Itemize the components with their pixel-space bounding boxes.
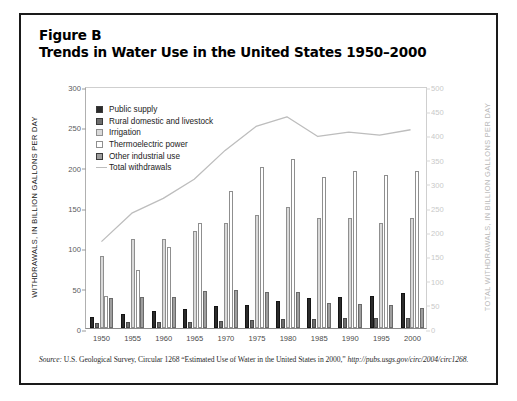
legend-line-swatch <box>96 167 107 168</box>
x-tick-label: 1980 <box>280 334 297 343</box>
y-tick-mark <box>82 330 86 331</box>
legend-swatch <box>96 118 103 125</box>
x-tick-label: 1955 <box>124 334 141 343</box>
y-tick-left: 300 <box>47 84 86 93</box>
legend-item: Rural domestic and livestock <box>96 116 213 128</box>
chart-legend: Public supplyRural domestic and livestoc… <box>96 104 213 174</box>
y-tick-mark <box>426 136 430 137</box>
legend-swatch <box>96 129 103 136</box>
legend-swatch <box>96 106 103 113</box>
legend-swatch <box>96 153 103 160</box>
legend-label: Thermoelectric power <box>109 140 188 149</box>
legend-label: Total withdrawals <box>109 163 171 172</box>
y-tick-left: 200 <box>47 164 86 173</box>
x-tick-label: 1990 <box>342 334 359 343</box>
y-tick-right: 200 <box>426 229 467 238</box>
y-tick-mark <box>426 161 430 162</box>
legend-item: Public supply <box>96 104 213 116</box>
legend-item: Irrigation <box>96 127 213 139</box>
y-tick-mark <box>426 282 430 283</box>
legend-item: Total withdrawals <box>96 162 213 174</box>
x-tick-label: 1950 <box>93 334 110 343</box>
x-tick-label: 1970 <box>217 334 234 343</box>
legend-swatch <box>96 141 103 148</box>
y-tick-right: 50 <box>426 301 467 310</box>
source-url: http://pubs.usgs.gov/circ/2004/circ1268. <box>348 355 469 364</box>
source-label: Source: <box>39 355 62 364</box>
y-tick-right: 450 <box>426 108 467 117</box>
y-tick-mark <box>426 233 430 234</box>
y-tick-left: 50 <box>47 285 86 294</box>
y-tick-right: 400 <box>426 132 467 141</box>
x-tick-label: 2000 <box>404 334 421 343</box>
x-tick-label: 1960 <box>155 334 172 343</box>
plot-region: 050100150200250300 050100150200250300350… <box>85 87 427 329</box>
y-tick-right: 350 <box>426 156 467 165</box>
y-tick-right: 150 <box>426 253 467 262</box>
y-tick-mark <box>426 112 430 113</box>
y-tick-left: 150 <box>47 205 86 214</box>
y-tick-mark <box>426 306 430 307</box>
y-axis-title-right: TOTAL WITHDRAWALS, IN BILLION GALLONS PE… <box>483 0 497 87</box>
y-axis-title-right-text: TOTAL WITHDRAWALS, IN BILLION GALLONS PE… <box>483 87 492 327</box>
legend-label: Rural domestic and livestock <box>109 117 213 126</box>
y-tick-left: 250 <box>47 124 86 133</box>
y-tick-right: 250 <box>426 205 467 214</box>
source-note: Source: U.S. Geological Survey, Circular… <box>39 355 481 364</box>
x-tick-label: 1975 <box>249 334 266 343</box>
y-tick-left: 0 <box>47 326 86 335</box>
x-tick-label: 1965 <box>186 334 203 343</box>
x-tick-label: 1985 <box>311 334 328 343</box>
y-tick-right: 100 <box>426 277 467 286</box>
legend-label: Public supply <box>109 105 157 114</box>
y-tick-right: 300 <box>426 180 467 189</box>
y-tick-right: 500 <box>426 84 467 93</box>
y-axis-title-left: WITHDRAWALS, IN BILLION GALLONS PER DAY <box>30 0 44 87</box>
source-text: U.S. Geological Survey, Circular 1268 “E… <box>62 355 348 364</box>
y-tick-mark <box>426 209 430 210</box>
y-tick-mark <box>426 330 430 331</box>
legend-label: Other industrial use <box>109 152 180 161</box>
legend-item: Other industrial use <box>96 150 213 162</box>
y-tick-mark <box>426 185 430 186</box>
x-tick-label: 1995 <box>373 334 390 343</box>
y-tick-mark <box>426 88 430 89</box>
legend-label: Irrigation <box>109 128 141 137</box>
chart-area: WITHDRAWALS, IN BILLION GALLONS PER DAY … <box>21 15 500 387</box>
legend-item: Thermoelectric power <box>96 139 213 151</box>
figure-frame: Figure B Trends in Water Use in the Unit… <box>19 13 498 385</box>
y-tick-left: 100 <box>47 245 86 254</box>
y-tick-right: 0 <box>426 326 467 335</box>
y-axis-title-left-text: WITHDRAWALS, IN BILLION GALLONS PER DAY <box>30 87 39 327</box>
y-tick-mark <box>426 257 430 258</box>
